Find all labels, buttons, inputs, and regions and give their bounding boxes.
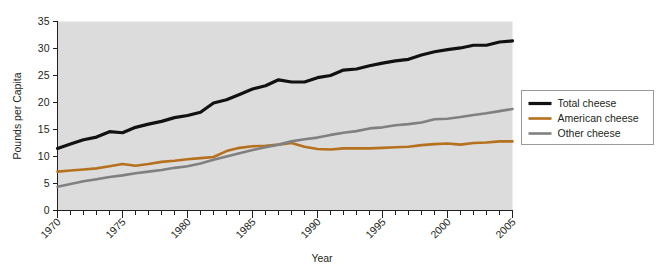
line-chart: 0510152025303519701975198019851990199520…	[0, 0, 667, 270]
legend-label-total-cheese: Total cheese	[558, 97, 617, 109]
x-tick-label: 1995	[363, 215, 388, 240]
y-tick-label: 25	[38, 69, 50, 81]
x-tick-label: 1975	[103, 215, 128, 240]
x-tick-label: 2005	[493, 215, 518, 240]
x-tick-label: 2000	[428, 215, 453, 240]
x-axis-title: Year	[311, 252, 333, 264]
x-tick-label: 1985	[233, 215, 258, 240]
y-axis-title: Pounds per Capita	[11, 72, 23, 159]
y-tick-label: 20	[38, 96, 50, 108]
x-tick-label: 1970	[38, 215, 63, 240]
x-tick-label: 1980	[168, 215, 193, 240]
cheese-consumption-figure: 0510152025303519701975198019851990199520…	[0, 0, 667, 270]
legend-label-american-cheese: American cheese	[558, 112, 639, 124]
y-tick-label: 5	[44, 177, 50, 189]
y-tick-label: 30	[38, 42, 50, 54]
legend-label-other-cheese: Other cheese	[558, 127, 621, 139]
y-tick-label: 10	[38, 150, 50, 162]
y-tick-label: 15	[38, 123, 50, 135]
x-tick-label: 1990	[298, 215, 323, 240]
y-tick-label: 35	[38, 15, 50, 27]
y-tick-label: 0	[44, 204, 50, 216]
